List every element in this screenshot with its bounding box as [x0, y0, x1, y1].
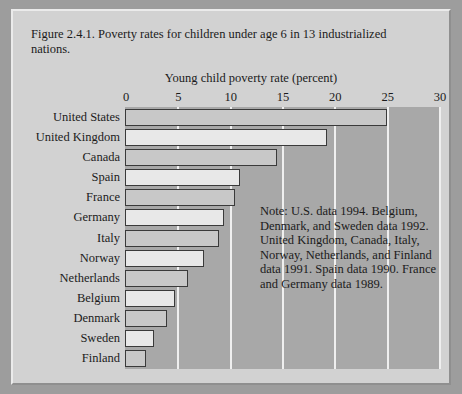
category-axis-labels: United StatesUnited KingdomCanadaSpainFr… [16, 107, 123, 369]
bar-row [125, 330, 439, 347]
x-tick-label: 15 [268, 90, 298, 105]
x-tick-label: 25 [373, 90, 403, 105]
x-tick-label: 10 [216, 90, 246, 105]
category-label: Italy [0, 230, 120, 247]
category-label: France [0, 189, 120, 206]
category-label: Sweden [0, 330, 120, 347]
bar-row [125, 310, 439, 327]
bar [125, 169, 240, 186]
bar [125, 209, 224, 226]
category-label: Denmark [0, 310, 120, 327]
bar-row [125, 149, 439, 166]
bar-row [125, 169, 439, 186]
category-label: United Kingdom [0, 129, 120, 146]
bar [125, 350, 146, 367]
bar-row [125, 350, 439, 367]
bar [125, 109, 387, 126]
x-tick-label: 0 [111, 90, 141, 105]
x-tick-label: 5 [163, 90, 193, 105]
bar [125, 290, 175, 307]
bar [125, 230, 219, 247]
bar [125, 149, 277, 166]
figure-inner-panel: Figure 2.4.1. Poverty rates for children… [16, 14, 446, 380]
bar-row [125, 290, 439, 307]
x-axis-title: Young child poverty rate (percent) [16, 71, 446, 86]
x-tick-label: 20 [320, 90, 350, 105]
category-label: Belgium [0, 290, 120, 307]
x-tick-label: 30 [425, 90, 455, 105]
bar [125, 189, 235, 206]
figure-title: Figure 2.4.1. Poverty rates for children… [31, 27, 401, 57]
bar-row [125, 109, 439, 126]
category-label: Finland [0, 350, 120, 367]
category-label: United States [0, 109, 120, 126]
chart-note: Note: U.S. data 1994. Belgium, Denmark, … [260, 204, 445, 292]
bar [125, 330, 154, 347]
bar [125, 129, 327, 146]
bar-row [125, 129, 439, 146]
bar [125, 310, 167, 327]
x-axis-tick-labels: 051015202530 [16, 90, 446, 106]
bar [125, 250, 204, 267]
category-label: Canada [0, 149, 120, 166]
figure-frame: Figure 2.4.1. Poverty rates for children… [11, 9, 451, 385]
category-label: Spain [0, 169, 120, 186]
bar [125, 270, 188, 287]
category-label: Netherlands [0, 270, 120, 287]
category-label: Norway [0, 250, 120, 267]
category-label: Germany [0, 209, 120, 226]
